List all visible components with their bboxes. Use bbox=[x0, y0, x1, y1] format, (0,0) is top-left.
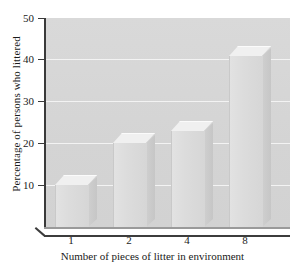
bar-side-face bbox=[204, 123, 213, 227]
bar-2 bbox=[113, 143, 146, 227]
bar-side-face bbox=[262, 48, 271, 227]
bar-3 bbox=[171, 131, 204, 227]
bar-chart: Percentage of persons who littered bbox=[0, 0, 305, 270]
plot-area bbox=[44, 18, 290, 227]
x-tick-label-1: 1 bbox=[51, 234, 91, 246]
bar-front-face bbox=[55, 185, 89, 227]
bar-side-face bbox=[146, 135, 155, 227]
bar-4 bbox=[229, 56, 262, 227]
x-tick-label-8: 8 bbox=[225, 234, 265, 246]
y-tick-label-40: 40 bbox=[8, 54, 34, 64]
bar-front-face bbox=[171, 131, 205, 227]
y-axis-line bbox=[44, 18, 46, 229]
y-tick-label-30: 30 bbox=[8, 96, 34, 106]
y-tick-label-10: 10 bbox=[8, 180, 34, 190]
bar-side-face bbox=[88, 177, 97, 227]
y-tick-label-50: 50 bbox=[8, 13, 34, 23]
y-tick-10 bbox=[38, 185, 46, 186]
bar-1 bbox=[55, 185, 88, 227]
y-tick-50 bbox=[38, 18, 46, 19]
x-tick-label-4: 4 bbox=[167, 234, 207, 246]
x-tick-label-2: 2 bbox=[109, 234, 149, 246]
y-tick-20 bbox=[38, 143, 46, 144]
y-tick-40 bbox=[38, 59, 46, 60]
bar-front-face bbox=[113, 143, 147, 227]
y-tick-30 bbox=[38, 101, 46, 102]
floor-top-edge bbox=[44, 227, 290, 229]
x-axis-title: Number of pieces of litter in environmen… bbox=[0, 250, 305, 262]
y-tick-label-20: 20 bbox=[8, 138, 34, 148]
bar-front-face bbox=[229, 56, 263, 227]
